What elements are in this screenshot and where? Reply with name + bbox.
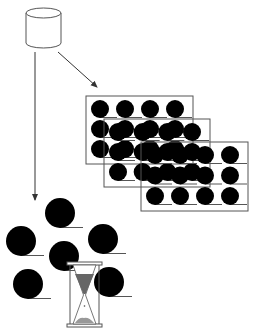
item-circle [45, 198, 83, 228]
batch-stack [86, 96, 248, 211]
unordered-pool [6, 198, 132, 299]
item-circle [141, 100, 167, 118]
item-circle [183, 123, 209, 141]
item-circle [94, 267, 132, 297]
item-circle [88, 224, 126, 254]
item-circle [109, 163, 135, 181]
hourglass-icon [67, 262, 102, 327]
item-circle [166, 100, 192, 118]
item-circle [221, 167, 247, 185]
item-circle [146, 187, 172, 205]
item-circle [171, 187, 197, 205]
diagram-canvas [0, 0, 253, 331]
arrow-to-batches [58, 52, 97, 87]
item-circle [6, 226, 44, 256]
database-cylinder-icon [26, 8, 61, 48]
item-circle [221, 187, 247, 205]
item-circle [221, 146, 247, 164]
item-circle [196, 187, 222, 205]
item-circle [116, 100, 142, 118]
item-circle [196, 167, 222, 185]
item-circle [91, 100, 117, 118]
item-circle [196, 146, 222, 164]
item-circle [13, 269, 51, 299]
